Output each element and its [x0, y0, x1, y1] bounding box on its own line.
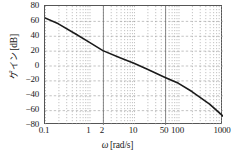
- marker-lines: [103, 6, 165, 125]
- y-tick-label: 20: [30, 45, 39, 54]
- y-tick-label: −40: [26, 90, 39, 99]
- y-tick-label: 0: [35, 60, 39, 69]
- y-tick-label: 40: [30, 30, 39, 39]
- x-tick-label: 50: [160, 125, 169, 136]
- x-tick-label: 1000: [213, 125, 230, 136]
- x-tick-label: 1: [86, 125, 90, 136]
- grid-horizontal: [45, 21, 223, 110]
- gain-curve: [45, 18, 223, 116]
- x-axis-title-unit: [rad/s]: [110, 140, 133, 150]
- x-tick-label: 100: [171, 125, 184, 136]
- y-tick-label: 60: [30, 15, 39, 24]
- y-axis-title-unit: [dB]: [9, 34, 19, 51]
- plot-svg: [45, 6, 223, 125]
- x-tick-label: 0.1: [39, 125, 50, 136]
- y-axis-title: ゲイン [dB]: [7, 2, 20, 112]
- y-tick-label: 80: [30, 1, 39, 10]
- bode-plot-figure: 806040200−20−40−60−80 0.11210501001000 ω…: [0, 0, 235, 160]
- x-axis-ticks: 0.11210501001000: [0, 125, 235, 139]
- x-axis-title: ω [rad/s]: [0, 140, 235, 150]
- y-tick-label: −20: [26, 75, 39, 84]
- y-axis-title-jp: ゲイン: [9, 52, 19, 78]
- grid-minor-vertical: [46, 6, 222, 125]
- x-tick-label: 10: [129, 125, 138, 136]
- plot-area: [44, 5, 222, 124]
- y-tick-label: −60: [26, 105, 39, 114]
- x-tick-label: 2: [100, 125, 104, 136]
